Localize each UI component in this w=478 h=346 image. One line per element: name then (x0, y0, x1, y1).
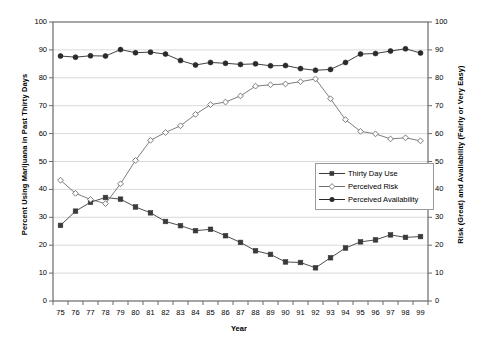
data-point-marker (103, 195, 108, 200)
y-tick-label-right: 100 (435, 17, 461, 26)
legend-item-1: Perceived Risk (319, 180, 431, 193)
data-point-marker (388, 136, 394, 142)
data-point-marker (403, 135, 409, 141)
data-point-marker (73, 209, 78, 214)
data-point-marker (373, 238, 378, 243)
data-point-marker (268, 63, 273, 68)
data-point-marker (133, 50, 138, 55)
data-point-marker (283, 260, 288, 265)
data-point-marker (298, 66, 303, 71)
data-point-marker (343, 246, 348, 251)
data-point-marker (223, 61, 228, 66)
data-point-marker (298, 79, 304, 85)
data-point-marker (223, 233, 228, 238)
legend-item-0: Thirty Day Use (319, 167, 431, 180)
chart-legend: Thirty Day UsePerceived RiskPerceived Av… (315, 163, 434, 210)
y-tick-label-left: 30 (21, 212, 47, 221)
data-point-marker (73, 55, 78, 60)
data-point-marker (418, 50, 423, 55)
legend-label: Perceived Risk (345, 182, 398, 191)
data-point-marker (253, 248, 258, 253)
y-tick-label-left: 20 (21, 240, 47, 249)
data-point-marker (238, 62, 243, 67)
data-point-marker (238, 93, 244, 99)
data-point-marker (388, 49, 393, 54)
data-point-marker (238, 240, 243, 245)
data-point-marker (163, 52, 168, 57)
data-point-marker (418, 234, 423, 239)
data-point-marker (193, 62, 198, 67)
legend-open-diamond-icon (319, 181, 345, 192)
data-point-marker (313, 68, 318, 73)
data-point-marker (88, 53, 93, 58)
y-tick-label-right: 50 (435, 157, 461, 166)
data-point-marker (403, 235, 408, 240)
y-tick-label-left: 70 (21, 101, 47, 110)
data-point-marker (268, 82, 274, 88)
data-point-marker (118, 197, 123, 202)
data-point-marker (208, 102, 214, 108)
y-tick-label-left: 80 (21, 73, 47, 82)
data-point-marker (253, 83, 259, 89)
data-point-marker (163, 130, 169, 136)
data-point-marker (133, 205, 138, 210)
data-point-marker (208, 60, 213, 65)
data-point-marker (373, 51, 378, 56)
legend-label: Perceived Availability (345, 195, 418, 204)
data-point-marker (343, 60, 348, 65)
y-tick-label-left: 10 (21, 268, 47, 277)
legend-filled-circle-icon (319, 194, 345, 205)
legend-filled-square-icon (319, 168, 345, 179)
data-point-marker (178, 58, 183, 63)
data-point-marker (148, 211, 153, 216)
data-point-marker (328, 67, 333, 72)
data-point-marker (103, 54, 108, 59)
data-point-marker (328, 255, 333, 260)
data-point-marker (358, 240, 363, 245)
data-point-marker (253, 61, 258, 66)
x-tick-label: 99 (411, 308, 431, 317)
y-tick-label-left: 50 (21, 157, 47, 166)
y-tick-label-right: 30 (435, 212, 461, 221)
data-point-marker (58, 54, 63, 59)
data-point-marker (208, 227, 213, 232)
y-tick-label-right: 40 (435, 184, 461, 193)
data-point-marker (373, 131, 379, 137)
y-tick-label-left: 60 (21, 129, 47, 138)
legend-item-2: Perceived Availability (319, 193, 431, 206)
data-point-marker (358, 52, 363, 57)
data-point-marker (193, 228, 198, 233)
data-point-marker (283, 63, 288, 68)
y-tick-label-left: 100 (21, 17, 47, 26)
data-point-marker (58, 223, 63, 228)
data-point-marker (403, 46, 408, 51)
y-tick-label-left: 90 (21, 45, 47, 54)
y-tick-label-right: 20 (435, 240, 461, 249)
data-point-marker (418, 138, 424, 144)
y-tick-label-right: 0 (435, 296, 461, 305)
y-tick-label-right: 70 (435, 101, 461, 110)
data-point-marker (178, 223, 183, 228)
y-tick-label-right: 60 (435, 129, 461, 138)
marijuana-trends-chart: Percent Using Marijuana in Past Thirty D… (0, 0, 478, 346)
data-point-marker (313, 265, 318, 270)
y-tick-label-right: 10 (435, 268, 461, 277)
data-point-marker (118, 47, 123, 52)
y-tick-label-right: 90 (435, 45, 461, 54)
legend-label: Thirty Day Use (345, 169, 398, 178)
data-point-marker (268, 252, 273, 257)
data-point-marker (223, 99, 229, 105)
data-point-marker (298, 260, 303, 265)
y-tick-label-left: 0 (21, 296, 47, 305)
data-point-marker (148, 50, 153, 55)
data-point-marker (283, 81, 289, 87)
data-point-marker (163, 219, 168, 224)
y-tick-label-right: 80 (435, 73, 461, 82)
data-point-marker (388, 233, 393, 238)
y-tick-label-left: 40 (21, 184, 47, 193)
